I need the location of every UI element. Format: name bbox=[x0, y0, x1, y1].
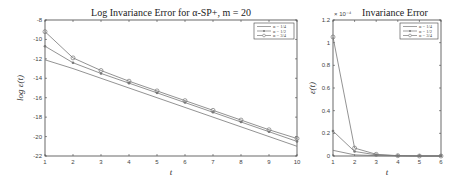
x-tick-label: 10 bbox=[294, 159, 301, 165]
x-tick-label: 1 bbox=[43, 159, 47, 165]
y-tick-label: -14 bbox=[33, 75, 42, 81]
log-error-chart: 12345678910-8-10-12-14-16-18-20-22Log In… bbox=[15, 7, 301, 177]
y-tick-label: -12 bbox=[33, 56, 42, 62]
y-tick-label: -8 bbox=[37, 17, 43, 23]
y-tick-label: 0.2 bbox=[322, 130, 331, 136]
x-tick-label: 5 bbox=[155, 159, 159, 165]
x-tick-label: 5 bbox=[418, 159, 422, 165]
star-marker bbox=[44, 45, 47, 48]
y-tick-label: -10 bbox=[33, 36, 42, 42]
x-tick-label: 6 bbox=[439, 159, 443, 165]
y-tick-label: 0.4 bbox=[322, 108, 331, 114]
x-tick-label: 3 bbox=[375, 159, 379, 165]
x-tick-label: 9 bbox=[267, 159, 271, 165]
series-line bbox=[333, 131, 441, 156]
chart-title: Invariance Error bbox=[362, 7, 428, 18]
y-axis-label: ε(t) bbox=[307, 82, 317, 94]
invariance-error-chart: 12345600.20.40.60.811.2Invariance Error×… bbox=[307, 7, 443, 177]
x-tick-label: 2 bbox=[353, 159, 357, 165]
y-tick-label: 0.6 bbox=[322, 85, 331, 91]
x-axis-label: t bbox=[170, 167, 173, 177]
y-tick-label: 0 bbox=[327, 153, 331, 159]
legend: α = 1/4α = 1/2α = 3/4 bbox=[254, 23, 294, 39]
series-line bbox=[45, 46, 297, 141]
star-marker bbox=[332, 130, 335, 133]
x-tick-label: 3 bbox=[99, 159, 103, 165]
x-tick-label: 4 bbox=[396, 159, 400, 165]
x-tick-label: 2 bbox=[71, 159, 75, 165]
x-tick-label: 7 bbox=[211, 159, 215, 165]
x-tick-label: 8 bbox=[239, 159, 243, 165]
plot-area bbox=[45, 20, 297, 156]
y-exponent: × 10⁻⁴ bbox=[334, 11, 352, 17]
x-tick-label: 1 bbox=[331, 159, 335, 165]
y-tick-label: 1 bbox=[327, 40, 331, 46]
y-axis-label: log ε(t) bbox=[15, 75, 25, 101]
x-axis-label: t bbox=[386, 167, 389, 177]
figure: 12345678910-8-10-12-14-16-18-20-22Log In… bbox=[0, 0, 459, 182]
series-line bbox=[45, 32, 297, 139]
star-marker bbox=[353, 150, 356, 153]
y-tick-label: -20 bbox=[33, 134, 42, 140]
y-tick-label: -16 bbox=[33, 95, 42, 101]
y-tick-label: 0.8 bbox=[322, 62, 331, 68]
star-marker bbox=[72, 61, 75, 64]
chart-title: Log Invariance Error for α-SP+, m = 20 bbox=[91, 7, 251, 18]
series-line bbox=[45, 60, 297, 146]
y-tick-label: -18 bbox=[33, 114, 42, 120]
x-tick-label: 4 bbox=[127, 159, 131, 165]
y-tick-label: -22 bbox=[33, 153, 42, 159]
series-line bbox=[333, 37, 441, 156]
legend: α = 1/4α = 1/2α = 3/4 bbox=[400, 23, 438, 39]
legend-entry: α = 3/4 bbox=[273, 33, 287, 38]
legend-entry: α = 3/4 bbox=[419, 33, 433, 38]
plot-area bbox=[333, 20, 441, 156]
y-tick-label: 1.2 bbox=[322, 17, 331, 23]
x-tick-label: 6 bbox=[183, 159, 187, 165]
